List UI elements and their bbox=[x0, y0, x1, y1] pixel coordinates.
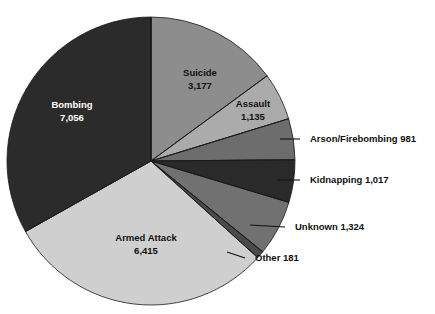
slice-label-value-armed-attack: 6,415 bbox=[134, 244, 158, 255]
callout-label-other: Other 181 bbox=[255, 252, 300, 263]
slice-label-name-bombing: Bombing bbox=[51, 99, 92, 110]
callout-label-unknown: Unknown 1,324 bbox=[295, 221, 365, 232]
callout-label-arson-firebombing: Arson/Firebombing 981 bbox=[310, 133, 417, 144]
pie-chart-figure: SuicideAssaultArson/Firebombing 981Kidna… bbox=[0, 0, 435, 314]
slice-label-name-armed-attack: Armed Attack bbox=[115, 232, 177, 243]
slice-label-value-bombing: 7,056 bbox=[60, 111, 84, 122]
slice-label-name-suicide: Suicide bbox=[183, 67, 217, 78]
slice-label-value-suicide: 3,177 bbox=[188, 79, 212, 90]
slice-label-name-assault: Assault bbox=[236, 98, 271, 109]
slice-label-suicide: Suicide3,177 bbox=[183, 67, 217, 91]
pie-chart-canvas: SuicideAssaultArson/Firebombing 981Kidna… bbox=[0, 0, 435, 314]
slice-label-value-assault: 1,135 bbox=[241, 110, 265, 121]
callout-label-kidnapping: Kidnapping 1,017 bbox=[310, 174, 389, 185]
